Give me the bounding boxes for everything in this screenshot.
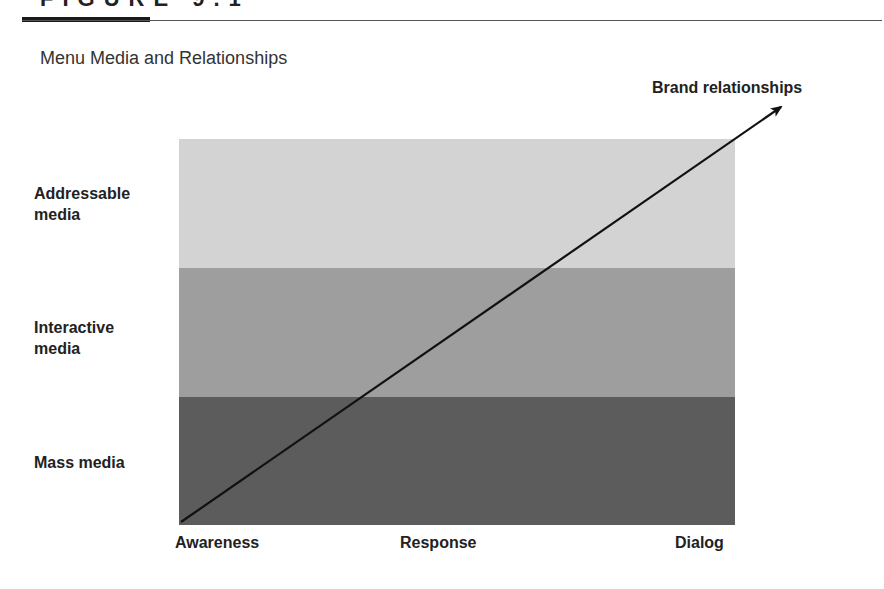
arrow-label: Brand relationships (652, 79, 802, 97)
